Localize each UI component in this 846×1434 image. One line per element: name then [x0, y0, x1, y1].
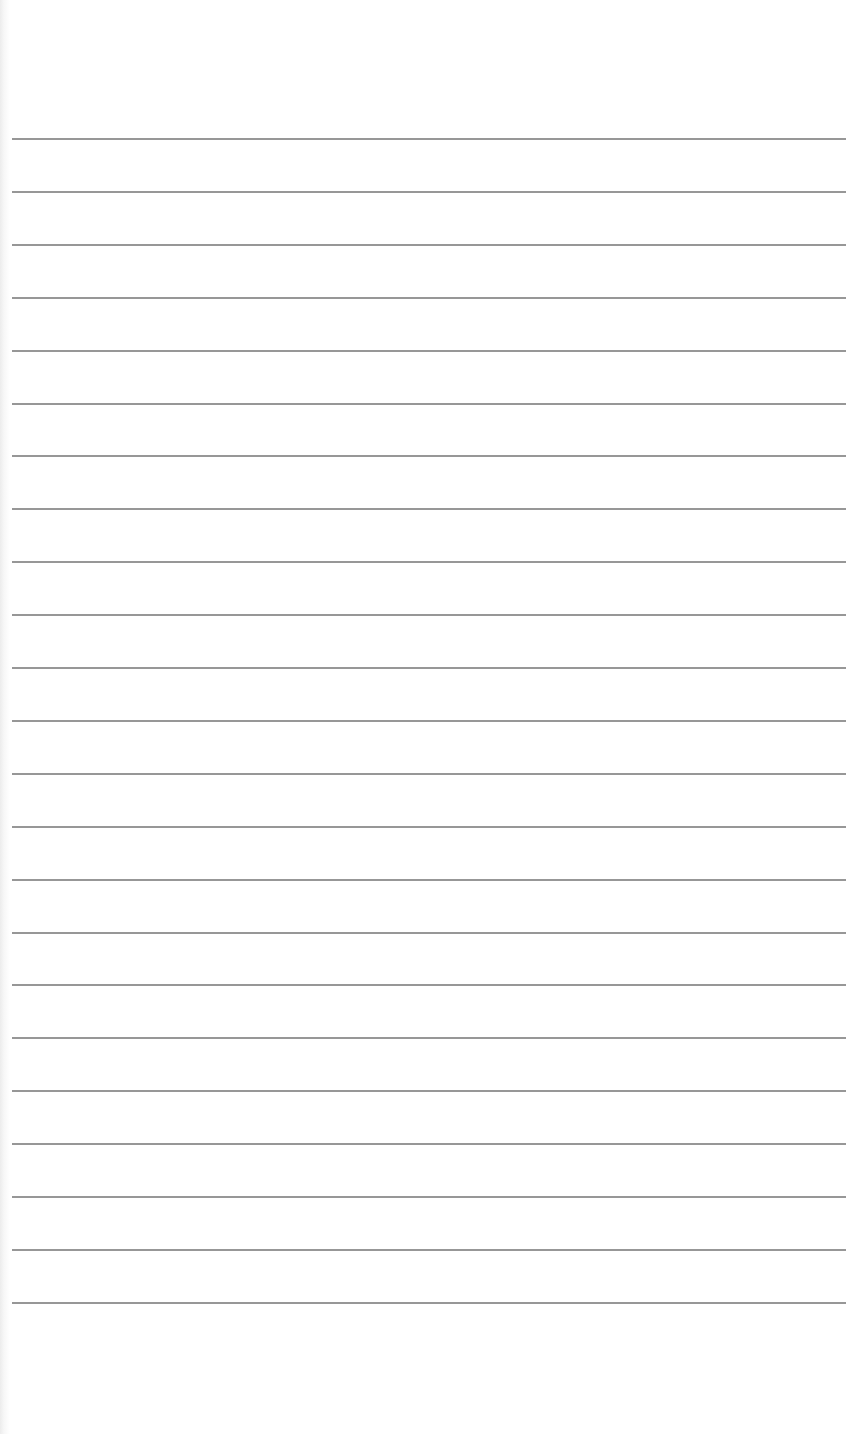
ruled-line: [12, 667, 846, 669]
ruled-line: [12, 403, 846, 405]
ruled-line: [12, 561, 846, 563]
ruled-line: [12, 932, 846, 934]
ruled-line: [12, 1143, 846, 1145]
ruled-line: [12, 1196, 846, 1198]
lined-paper: [0, 0, 846, 1434]
ruled-line: [12, 191, 846, 193]
ruled-line: [12, 297, 846, 299]
ruled-line: [12, 508, 846, 510]
ruled-line: [12, 1037, 846, 1039]
ruled-line: [12, 1302, 846, 1304]
ruled-line: [12, 720, 846, 722]
ruled-line: [12, 984, 846, 986]
ruled-line: [12, 614, 846, 616]
ruled-line: [12, 138, 846, 140]
ruled-line: [12, 773, 846, 775]
ruled-line: [12, 826, 846, 828]
ruled-line: [12, 350, 846, 352]
ruled-line: [12, 244, 846, 246]
ruled-line: [12, 455, 846, 457]
ruled-line: [12, 879, 846, 881]
ruled-line: [12, 1090, 846, 1092]
ruled-line: [12, 1249, 846, 1251]
